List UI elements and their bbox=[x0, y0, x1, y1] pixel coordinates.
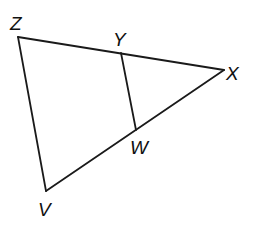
segment-YW bbox=[121, 53, 136, 130]
vertex-label-x: X bbox=[225, 63, 240, 84]
vertex-label-z: Z bbox=[9, 13, 23, 34]
point-label-w: W bbox=[130, 137, 150, 158]
triangle-diagram: Z Y X W V bbox=[0, 0, 253, 234]
point-label-y: Y bbox=[113, 29, 127, 50]
vertex-label-v: V bbox=[38, 199, 53, 220]
side-VZ bbox=[18, 37, 46, 191]
side-XV bbox=[46, 70, 224, 191]
